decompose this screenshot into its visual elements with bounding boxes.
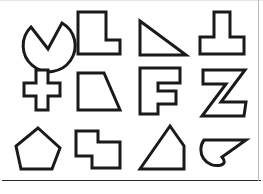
shape-cell-right-triangle[interactable]: Right triangle xyxy=(138,19,188,57)
shape-cell-plus-cross-shape[interactable]: Plus cross xyxy=(22,68,62,112)
circle-with-v-notch-icon: Circle with V notch xyxy=(23,23,75,72)
worksheet-page: Circle with V notchL shapeRight triangle… xyxy=(0,0,263,194)
wedge-house-shape-icon: Wedge house shape xyxy=(140,126,184,169)
letter-z-shape-icon: Letter Z xyxy=(202,70,246,116)
letter-f-shape-icon: Letter F xyxy=(140,68,180,114)
pentagon-shape-icon: Pentagon xyxy=(16,128,60,169)
shape-cell-right-trapezoid[interactable]: Right trapezoid xyxy=(76,71,122,112)
page-right-edge-rule xyxy=(258,0,259,181)
plus-cross-shape-icon: Plus cross xyxy=(24,70,60,110)
shape-cell-stepped-polygon[interactable]: Stepped polygon xyxy=(74,129,122,170)
shape-grid: Circle with V notchL shapeRight triangle… xyxy=(0,0,263,194)
shape-cell-l-shape[interactable]: L shape xyxy=(76,10,122,56)
page-bottom-rule xyxy=(2,180,261,181)
t-shape-icon: T shape xyxy=(200,12,244,54)
shape-cell-letter-z-shape[interactable]: Letter Z xyxy=(200,68,248,118)
shape-cell-letter-f-shape[interactable]: Letter F xyxy=(138,66,182,116)
shape-cell-t-shape[interactable]: T shape xyxy=(198,10,246,56)
shape-cell-pentagon-shape[interactable]: Pentagon xyxy=(14,126,62,171)
shape-cell-wedge-house-shape[interactable]: Wedge house shape xyxy=(138,124,188,171)
shape-cell-curved-hook-shape[interactable]: Curved hook xyxy=(200,132,250,168)
right-triangle-icon: Right triangle xyxy=(140,21,186,55)
shape-cell-circle-with-v-notch[interactable]: Circle with V notch xyxy=(12,9,65,59)
right-trapezoid-icon: Right trapezoid xyxy=(78,73,120,110)
curved-hook-shape-icon: Curved hook xyxy=(201,140,246,166)
stepped-polygon-icon: Stepped polygon xyxy=(76,131,120,168)
l-shape-icon: L shape xyxy=(78,12,120,54)
